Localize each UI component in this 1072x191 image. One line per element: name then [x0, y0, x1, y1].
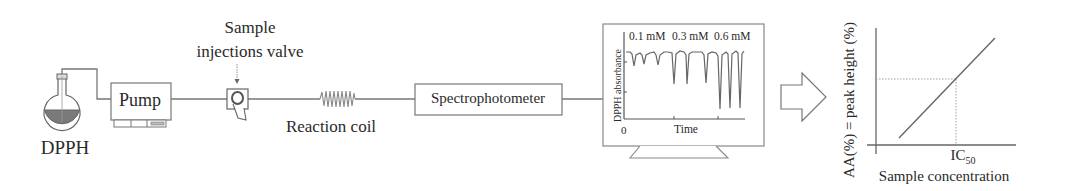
- ic50-main: IC: [951, 147, 966, 163]
- monitor-xlabel: Time: [674, 124, 698, 136]
- ic50-label: IC50: [951, 148, 976, 166]
- valve-label-line1: Sample: [225, 19, 276, 36]
- coil-icon: [320, 91, 355, 107]
- result-xlabel: Sample concentration: [879, 169, 1009, 184]
- flow-injection-diagram: DPPH Pump Sample injections valve Reacti…: [0, 0, 1072, 191]
- valve-label-line2: injections valve: [196, 43, 303, 60]
- monitor-concentration-3: 0.6 mM: [714, 31, 750, 43]
- monitor-concentration-2: 0.3 mM: [672, 31, 708, 43]
- monitor-concentration-1: 0.1 mM: [629, 31, 665, 43]
- result-chart: [867, 28, 1016, 154]
- result-ylabel: AA(%) = peak height (%): [842, 22, 857, 178]
- calibration-line: [899, 38, 995, 138]
- pump-label: Pump: [119, 91, 161, 109]
- monitor-x-origin: 0: [621, 125, 627, 136]
- monitor-icon: [603, 24, 764, 158]
- coil-label: Reaction coil: [286, 118, 376, 135]
- valve-pointer-arrow: [235, 64, 240, 84]
- flask-icon: [44, 74, 80, 131]
- reagent-label: DPPH: [41, 138, 90, 157]
- injection-valve-icon: [227, 89, 248, 120]
- block-arrow-right-icon: [781, 73, 826, 121]
- monitor-ylabel: DPPH absorbance: [613, 49, 623, 122]
- spectrophotometer-label: Spectrophotometer: [431, 91, 545, 106]
- ic50-sub: 50: [966, 155, 976, 166]
